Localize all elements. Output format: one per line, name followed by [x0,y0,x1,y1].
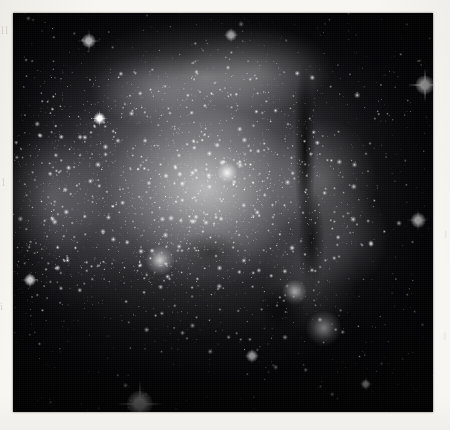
star-core [411,213,425,227]
spike-star-top-mid [223,27,239,43]
diffraction-spike-v [252,348,253,364]
margin-mark-right-mid: ‖ [444,228,448,240]
astronomical-plate [13,13,433,412]
star-core [24,274,36,286]
nebula-right-lobe [13,13,433,412]
diffraction-spike-v [231,27,232,43]
spike-star-right-edge [407,209,429,231]
margin-mark-left-top: ll [1,24,9,36]
nebula-rim-arc [13,13,433,412]
spike-star-upper-right [408,68,433,102]
spike-star-lower-mid [244,348,260,364]
star-core [246,350,258,362]
deep-sky-background [13,13,433,412]
dark-dust-lane [13,13,433,412]
margin-mark-right-low: ‖ [443,330,447,342]
diffraction-spike-h [91,118,108,119]
star-core [93,113,105,125]
spike-star-bottom [117,381,163,412]
diffraction-spike-v [99,110,100,127]
spike-star-mid-left [91,110,108,127]
star-core [415,75,433,94]
diffraction-spike-h [21,280,39,281]
star-core [361,379,371,389]
star-field-mid [13,13,433,412]
spike-star-bottom-right [359,377,373,391]
scan-grain [13,13,433,412]
plate-vignette [13,13,433,412]
diffraction-spike-h [223,34,239,35]
diffraction-spike-h [244,356,260,357]
diffraction-spike-v [29,271,30,289]
star-field-bright [13,13,433,412]
margin-mark-left-low: i [0,300,4,312]
star-core [81,34,95,48]
diffraction-spike-v [424,68,426,102]
star-field-faint [13,13,433,412]
dense-star-swarm-left [13,13,433,412]
diffraction-spike-v [139,381,141,412]
diffraction-spike-h [407,220,429,221]
diffraction-spike-v [88,29,89,53]
nebula-bright-knots [13,13,433,412]
diffraction-spike-v [365,377,366,391]
nebula-core-glow [13,13,433,412]
diffraction-spike-h [359,384,373,385]
star-core [225,29,237,41]
diffraction-spike-h [77,40,101,41]
page-canvas: ll l i ‖ ‖ [0,0,450,430]
star-core [127,391,153,412]
diffraction-spike-v [418,209,419,231]
diffraction-spike-h [408,84,433,86]
margin-mark-left-mid: l [2,176,6,188]
diffraction-spike-h [117,403,163,405]
spike-star-lower-left [21,271,39,289]
spike-star-upper-left [77,29,101,53]
